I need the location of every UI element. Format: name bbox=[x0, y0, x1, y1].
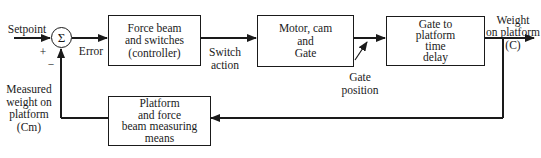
measured-label: Measured weight on platform (Cm) bbox=[0, 83, 58, 133]
summing-junction: Σ bbox=[51, 27, 72, 48]
setpoint-label: Setpoint bbox=[3, 23, 51, 36]
plus-sign: + bbox=[38, 46, 48, 59]
process-block-label: Gate to platform time delay bbox=[416, 19, 456, 63]
sigma-icon: Σ bbox=[58, 30, 66, 46]
process-block: Gate to platform time delay bbox=[386, 16, 485, 66]
minus-sign: − bbox=[46, 58, 56, 71]
controller-block-label: Force beam and switches (controller) bbox=[125, 22, 184, 60]
output-label: Weight on platform (C) bbox=[484, 1, 541, 51]
gate-position-label: Gate position bbox=[338, 71, 382, 96]
actuator-block-label: Motor, cam and Gate bbox=[279, 22, 332, 60]
error-label: Error bbox=[75, 45, 107, 58]
actuator-block: Motor, cam and Gate bbox=[257, 15, 354, 67]
controller-block: Force beam and switches (controller) bbox=[108, 15, 201, 66]
sensor-block-label: Platform and force beam measuring means bbox=[122, 98, 198, 144]
sensor-block: Platform and force beam measuring means bbox=[108, 96, 211, 146]
output-label-text: Weight on platform (C) bbox=[486, 14, 540, 51]
switch-action-label: Switch action bbox=[204, 46, 246, 71]
